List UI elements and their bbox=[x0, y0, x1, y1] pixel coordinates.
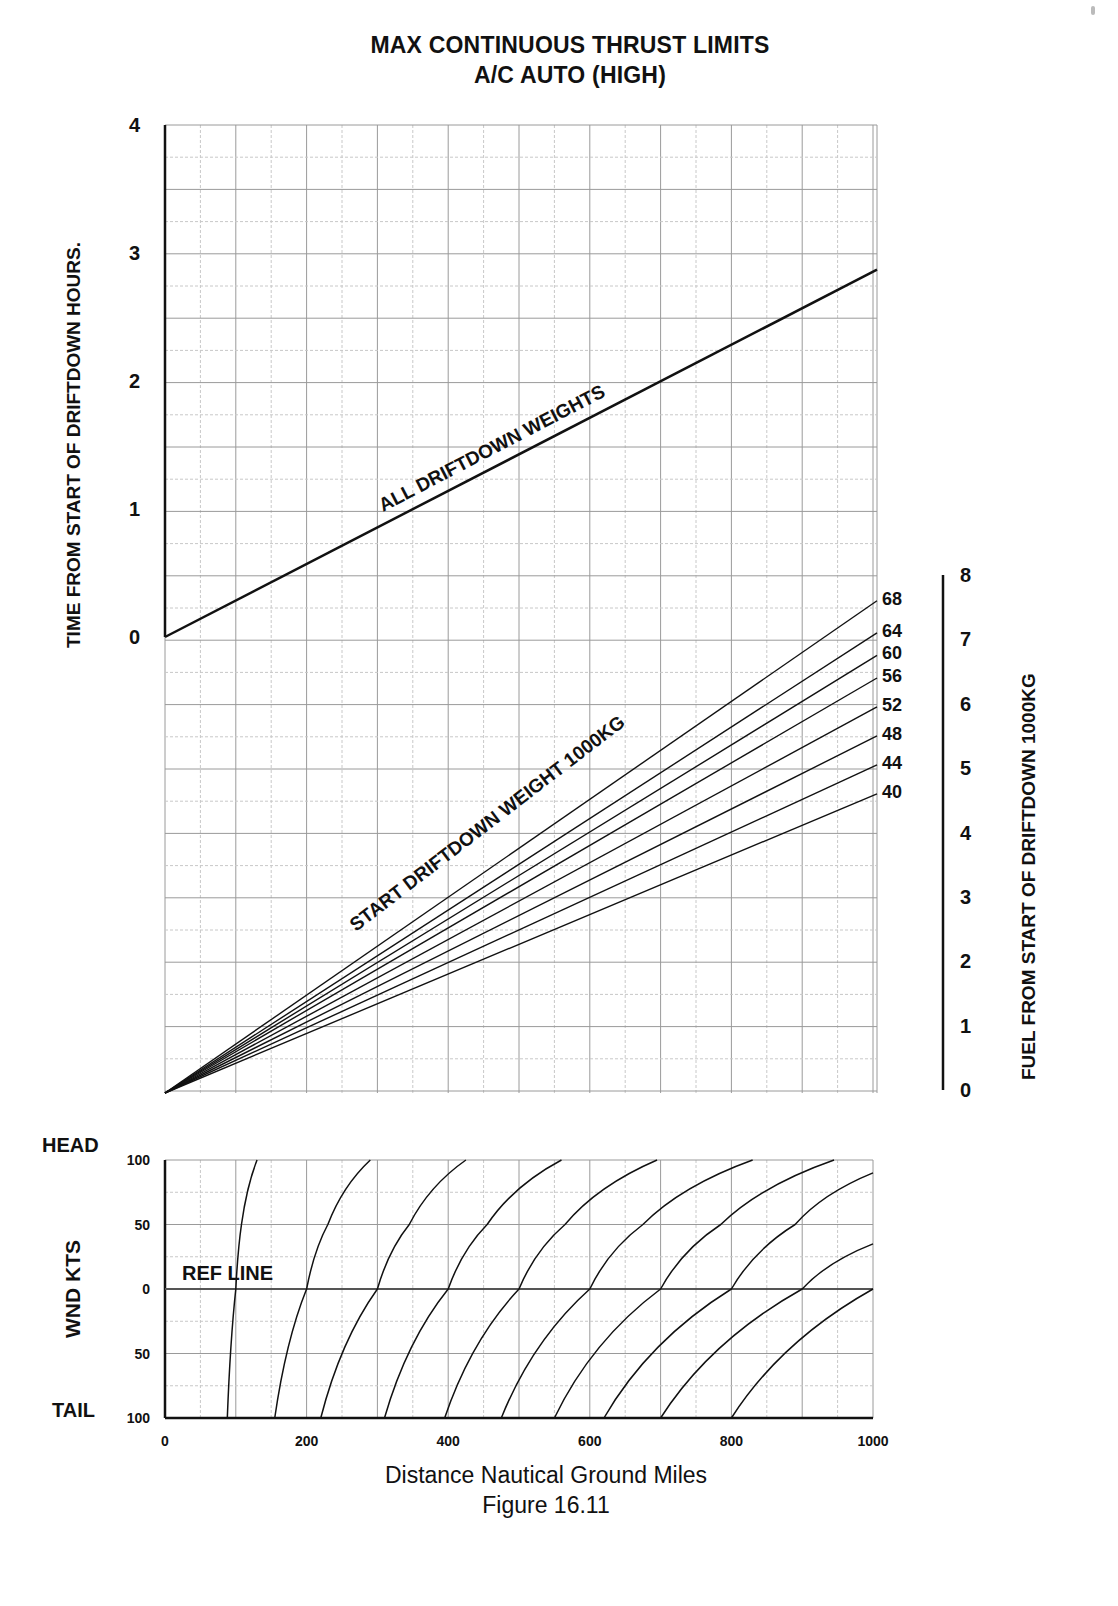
distance-tick-label: 1000 bbox=[857, 1433, 888, 1449]
time-tick-label: 2 bbox=[129, 370, 140, 392]
wind-tick-label: 50 bbox=[134, 1346, 150, 1362]
driftdown-chart: 0123401234567810050050100020040060080010… bbox=[0, 0, 1118, 1606]
fuel-tick-label: 3 bbox=[960, 886, 971, 908]
fuel-tick-label: 0 bbox=[960, 1079, 971, 1101]
fuel-axis-title: FUEL FROM START OF DRIFTDOWN 1000KG bbox=[1018, 673, 1039, 1080]
weight-label-60: 60 bbox=[882, 643, 902, 663]
weight-label-52: 52 bbox=[882, 695, 902, 715]
time-line bbox=[165, 270, 877, 637]
wind-axis-title: WND KTS bbox=[61, 1240, 84, 1338]
all-weights-label: ALL DRIFTDOWN WEIGHTS bbox=[375, 381, 608, 516]
fuel-tick-label: 1 bbox=[960, 1015, 971, 1037]
grid bbox=[165, 125, 877, 1418]
weight-label-64: 64 bbox=[882, 621, 902, 641]
weight-label-68: 68 bbox=[882, 589, 902, 609]
fuel-tick-label: 4 bbox=[960, 822, 972, 844]
distance-tick-label: 800 bbox=[720, 1433, 744, 1449]
weight-label-44: 44 bbox=[882, 753, 902, 773]
ref-line-label: REF LINE bbox=[182, 1262, 273, 1284]
weight-label-56: 56 bbox=[882, 666, 902, 686]
time-tick-label: 1 bbox=[129, 498, 140, 520]
wind-tick-label: 0 bbox=[142, 1281, 150, 1297]
weight-label-40: 40 bbox=[882, 782, 902, 802]
head-label: HEAD bbox=[42, 1134, 99, 1156]
wind-tick-label: 50 bbox=[134, 1217, 150, 1233]
fuel-line-44 bbox=[165, 765, 877, 1093]
fuel-line-68 bbox=[165, 601, 877, 1093]
fuel-line-52 bbox=[165, 707, 877, 1093]
tail-label: TAIL bbox=[52, 1399, 95, 1421]
start-weight-label: START DRIFTDOWN WEIGHT 1000KG bbox=[346, 711, 629, 935]
time-tick-label: 0 bbox=[129, 626, 140, 648]
distance-tick-label: 200 bbox=[295, 1433, 319, 1449]
x-axis-title: Distance Nautical Ground Miles bbox=[0, 1462, 1092, 1489]
time-tick-label: 4 bbox=[129, 114, 141, 136]
distance-tick-label: 400 bbox=[437, 1433, 461, 1449]
time-tick-label: 3 bbox=[129, 242, 140, 264]
fuel-tick-label: 6 bbox=[960, 693, 971, 715]
distance-tick-label: 0 bbox=[161, 1433, 169, 1449]
figure-caption: Figure 16.11 bbox=[0, 1492, 1092, 1519]
fuel-line-60 bbox=[165, 655, 877, 1093]
fuel-tick-label: 5 bbox=[960, 757, 971, 779]
series: 6864605652484440 bbox=[165, 270, 902, 1418]
fuel-line-56 bbox=[165, 678, 877, 1093]
fuel-tick-label: 8 bbox=[960, 564, 971, 586]
fuel-tick-label: 2 bbox=[960, 950, 971, 972]
fuel-line-64 bbox=[165, 633, 877, 1093]
distance-tick-label: 600 bbox=[578, 1433, 602, 1449]
fuel-line-40 bbox=[165, 794, 877, 1093]
wind-tick-label: 100 bbox=[127, 1152, 151, 1168]
wind-tick-label: 100 bbox=[127, 1410, 151, 1426]
weight-label-48: 48 bbox=[882, 724, 902, 744]
time-axis-title: TIME FROM START OF DRIFTDOWN HOURS. bbox=[63, 242, 84, 648]
fuel-tick-label: 7 bbox=[960, 628, 971, 650]
